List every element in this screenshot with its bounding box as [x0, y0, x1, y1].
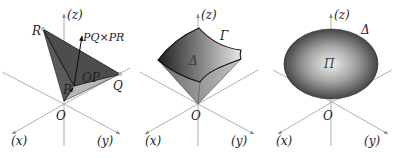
- panel-closed-surface: (z) Δ Π O (x) (y): [273, 8, 392, 148]
- origin-label: O: [323, 109, 333, 123]
- origin-label: O: [191, 109, 201, 123]
- point-Q-marker: [119, 73, 122, 76]
- region-delta-label: Δ: [188, 54, 198, 68]
- volume-delta-label: Δ: [360, 23, 370, 37]
- point-R-marker: [42, 28, 45, 31]
- y-axis: [332, 102, 388, 134]
- y-axis-label: (y): [97, 134, 113, 148]
- z-axis-label: (z): [334, 8, 350, 22]
- z-axis-label: (z): [67, 8, 83, 22]
- x-axis-back: [2, 72, 64, 104]
- point-Q-label: Q: [113, 79, 123, 93]
- point-R-label: R: [31, 24, 41, 38]
- y-axis: [64, 104, 120, 134]
- y-axis: [198, 104, 254, 134]
- x-axis-label: (x): [276, 134, 292, 148]
- OP-label: OP: [82, 71, 101, 85]
- origin-label: O: [56, 109, 66, 123]
- x-axis-label: (x): [11, 134, 27, 148]
- point-P-label: P: [62, 83, 72, 97]
- y-axis-label: (y): [364, 134, 380, 148]
- x-axis-label: (x): [145, 134, 161, 148]
- panel-surface-patch: (z) Γ Δ O (x) (y): [140, 8, 258, 148]
- boundary-gamma-label: Γ: [219, 29, 229, 43]
- z-axis-label: (z): [201, 8, 217, 22]
- panel-parallelogram: (z) R PQ×PR OP P Q O (x) (y): [2, 8, 130, 148]
- region-pi-label: Π: [323, 57, 335, 71]
- y-axis-label: (y): [231, 134, 247, 148]
- cross-product-label: PQ×PR: [82, 31, 124, 44]
